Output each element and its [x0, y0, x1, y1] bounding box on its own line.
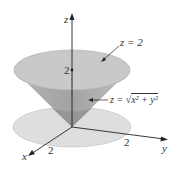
cone-annotation-prefix: z =: [110, 94, 126, 105]
x-tick-label: 2: [48, 145, 54, 156]
cone-figure: z 2 z = 2 z = √x² + y² 2 y 2 x: [0, 0, 181, 169]
x-axis-arrow-icon: [28, 150, 35, 156]
x-axis-label: x: [22, 151, 27, 162]
y-tick-label: 2: [124, 137, 130, 148]
cone-annotation-radicand: x² + y²: [131, 93, 158, 105]
cone-diagram-svg: [0, 0, 181, 169]
z-tick-point: [71, 69, 74, 72]
y-axis-label: y: [162, 143, 167, 154]
z-tick-label: 2: [64, 65, 70, 76]
plane-annotation: z = 2: [120, 37, 143, 48]
y-axis-arrow-icon: [161, 137, 169, 142]
z-axis-arrow-icon: [70, 13, 75, 20]
z-axis-label: z: [64, 14, 68, 25]
cone-annotation: z = √x² + y²: [110, 95, 158, 105]
